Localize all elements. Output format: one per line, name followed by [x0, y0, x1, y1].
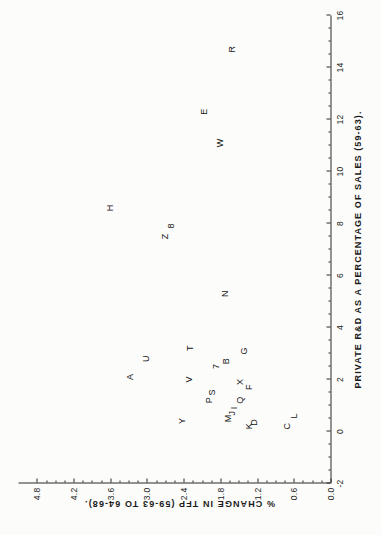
data-point-label: I — [228, 406, 238, 409]
y-tick-minor — [247, 480, 248, 482]
data-point-label: N — [219, 290, 229, 297]
data-point-label: B — [220, 358, 230, 364]
y-tick-minor — [165, 480, 166, 482]
x-tick-minor — [328, 235, 330, 236]
data-point-label: V — [183, 376, 193, 382]
x-tick-label: 12 — [334, 114, 344, 124]
y-tick-minor — [229, 480, 230, 482]
x-tick-label: 14 — [334, 62, 344, 72]
y-tick — [257, 478, 258, 482]
x-tick-minor — [328, 417, 330, 418]
scatter-plot-figure: -20246810121416 0.00.61.21.82.43.03.64.2… — [0, 0, 381, 535]
x-tick-minor — [328, 131, 330, 132]
x-tick — [326, 14, 330, 15]
x-tick-label: 6 — [334, 272, 344, 277]
data-point-label: 7 — [210, 363, 220, 368]
x-tick-minor — [328, 105, 330, 106]
y-tick — [183, 478, 184, 482]
x-tick-minor — [328, 183, 330, 184]
x-axis-title: PRIVATE R&D AS A PERCENTAGE OF SALES (59… — [352, 15, 362, 483]
y-tick-minor — [82, 480, 83, 482]
data-point-label: D — [248, 419, 258, 426]
x-tick-label: 0 — [334, 428, 344, 433]
y-tick-minor — [64, 480, 65, 482]
y-tick-minor — [101, 480, 102, 482]
x-tick-label: 8 — [334, 220, 344, 225]
x-tick-minor — [328, 365, 330, 366]
y-tick-minor — [128, 480, 129, 482]
y-tick-minor — [312, 480, 313, 482]
data-point-label: Q — [234, 396, 244, 403]
y-tick-minor — [275, 480, 276, 482]
data-point-label: G — [238, 347, 248, 354]
data-point-label: S — [206, 389, 216, 395]
y-tick — [110, 478, 111, 482]
x-tick-minor — [328, 157, 330, 158]
data-point-label: H — [104, 204, 114, 211]
x-tick-minor — [328, 196, 330, 197]
x-tick-label: 2 — [334, 376, 344, 381]
y-axis-title: % CHANGE IN TFP (59-63 TO 64-68). — [23, 498, 335, 508]
data-point-label: F — [243, 384, 253, 390]
y-tick-minor — [321, 480, 322, 482]
y-tick-minor — [119, 480, 120, 482]
x-tick-minor — [328, 391, 330, 392]
x-tick — [326, 378, 330, 379]
y-tick — [293, 478, 294, 482]
y-tick-minor — [302, 480, 303, 482]
x-tick — [326, 326, 330, 327]
x-tick-label: -2 — [334, 479, 344, 487]
y-tick-minor — [211, 480, 212, 482]
data-point-label: Z — [159, 233, 169, 239]
y-tick — [146, 478, 147, 482]
y-tick-minor — [266, 480, 267, 482]
x-tick-minor — [328, 352, 330, 353]
y-tick-minor — [192, 480, 193, 482]
x-tick-minor — [328, 339, 330, 340]
x-tick-minor — [328, 443, 330, 444]
x-tick — [326, 118, 330, 119]
x-tick-minor — [328, 92, 330, 93]
x-tick-label: 16 — [334, 10, 344, 20]
x-tick-minor — [328, 248, 330, 249]
y-tick-minor — [284, 480, 285, 482]
x-tick-minor — [328, 404, 330, 405]
x-tick — [326, 274, 330, 275]
y-tick-minor — [46, 480, 47, 482]
y-tick — [36, 478, 37, 482]
x-tick — [326, 170, 330, 171]
x-tick-minor — [328, 469, 330, 470]
x-tick — [326, 430, 330, 431]
y-tick-minor — [91, 480, 92, 482]
x-tick-minor — [328, 79, 330, 80]
x-tick-minor — [328, 40, 330, 41]
figure-page: -20246810121416 0.00.61.21.82.43.03.64.2… — [0, 0, 381, 535]
data-point-label: Y — [176, 418, 186, 424]
data-point-label: E — [198, 108, 208, 114]
data-point-label: L — [288, 413, 298, 418]
data-point-label: U — [140, 355, 150, 362]
data-point-label: M — [222, 414, 232, 422]
x-tick-minor — [328, 261, 330, 262]
y-tick — [330, 478, 331, 482]
x-tick — [326, 222, 330, 223]
x-tick-minor — [328, 456, 330, 457]
x-tick — [326, 482, 330, 483]
x-tick-label: 4 — [334, 324, 344, 329]
data-point-label: T — [184, 345, 194, 351]
data-point-label: P — [203, 397, 213, 403]
y-tick-minor — [202, 480, 203, 482]
y-tick-minor — [238, 480, 239, 482]
y-tick-minor — [156, 480, 157, 482]
data-point-label: R — [226, 46, 236, 53]
y-tick — [73, 478, 74, 482]
y-tick-minor — [137, 480, 138, 482]
x-tick-minor — [328, 53, 330, 54]
y-tick-minor — [174, 480, 175, 482]
x-tick-minor — [328, 300, 330, 301]
x-tick-minor — [328, 27, 330, 28]
x-tick — [326, 66, 330, 67]
data-point-label: W — [214, 138, 224, 147]
data-point-label: C — [281, 423, 291, 430]
x-tick-minor — [328, 287, 330, 288]
